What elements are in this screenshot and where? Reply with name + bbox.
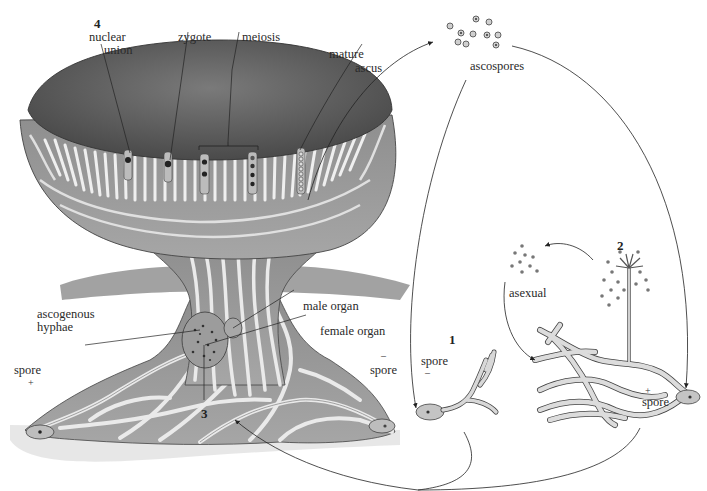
label-ascospores: ascospores	[470, 60, 524, 73]
ascomycete-life-cycle-diagram: 4 1 2 3 nuclear union zygote meiosis mat…	[0, 0, 707, 491]
label-spore-stage2: spore	[642, 396, 669, 409]
label-ascogenous-hyphae-line2: hyphae	[37, 321, 73, 334]
label-mature-ascus-line2: ascus	[355, 62, 382, 75]
spore-minus-right	[369, 419, 395, 433]
label-asexual: asexual	[509, 287, 546, 300]
label-spore-left: spore	[14, 364, 41, 377]
label-meiosis: meiosis	[242, 31, 280, 44]
sign-spore-stage2: +	[645, 385, 651, 396]
conidia	[600, 250, 650, 307]
stage-number-2: 2	[617, 238, 624, 254]
sign-spore-right-of-cup: –	[381, 350, 386, 361]
label-spore-right-of-cup: spore	[370, 364, 397, 377]
conidia-head	[616, 254, 643, 268]
label-mature-ascus-line1: mature	[329, 48, 364, 61]
label-male-organ: male organ	[303, 300, 359, 313]
stage-number-1: 1	[449, 332, 456, 348]
sign-spore-left: +	[28, 377, 34, 388]
ascus-nuclear-union	[124, 150, 132, 180]
arrow-ascospores-to-stage2	[512, 46, 688, 388]
label-nuclear-union-line2: union	[104, 44, 132, 57]
spore-plus-stage2	[676, 390, 700, 404]
sign-spore-stage1: –	[425, 367, 430, 378]
arrow-stage2-to-mating	[418, 428, 640, 490]
asexual-spores-cluster	[510, 244, 539, 274]
cup-apothecium	[20, 40, 396, 259]
arrow-conidia-to-asexual	[545, 244, 593, 260]
stage-2-mycelium-conidiophore	[535, 250, 700, 425]
stage-number-3: 3	[201, 406, 208, 422]
label-female-organ: female organ	[320, 325, 385, 338]
label-zygote: zygote	[178, 31, 211, 44]
ascospores-cluster	[447, 16, 501, 48]
diagram-artwork	[0, 0, 707, 491]
